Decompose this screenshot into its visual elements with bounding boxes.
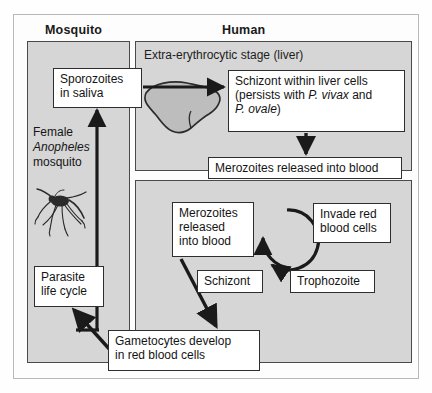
gametocytes-line-1: Gametocytes develop (115, 334, 231, 348)
column-header-human: Human (222, 23, 265, 37)
box-sporozoites-in-saliva[interactable]: Sporozoites in saliva (53, 68, 142, 108)
female-anopheles-label: Female Anopheles mosquito (33, 125, 113, 170)
box-parasite-life-cycle[interactable]: Parasite life cycle (34, 266, 104, 307)
column-header-mosquito: Mosquito (45, 23, 102, 37)
female-line-3: mosquito (33, 155, 82, 169)
merozoites-blood-line-3: into blood (179, 234, 231, 248)
box-merozoites-released-into-blood-liver[interactable]: Merozoites released into blood (208, 157, 402, 179)
sporozoites-line-1: Sporozoites (60, 72, 123, 86)
gametocytes-line-2: in red blood cells (115, 348, 205, 362)
merozoites-blood-line-2: released (179, 220, 225, 234)
box-invade-red-blood-cells[interactable]: Invade red blood cells (313, 203, 391, 243)
parasite-cycle-line-1: Parasite (41, 270, 85, 284)
diagram-canvas: Mosquito Human Extra-erythrocytic stage … (0, 0, 432, 393)
merozoites-released-line-1: Merozoites released into blood (215, 161, 378, 175)
box-trophozoite[interactable]: Trophozoite (290, 270, 375, 293)
female-line-2-italic: Anopheles (33, 140, 90, 154)
box-schizont[interactable]: Schizont (197, 270, 263, 293)
schizont-liver-line-4: ) (277, 102, 281, 116)
invade-line-2: blood cells (320, 221, 377, 235)
parasite-cycle-line-2: life cycle (41, 284, 87, 298)
sporozoites-line-2: in saliva (60, 86, 103, 100)
schizont-line-1: Schizont (204, 274, 250, 288)
trophozoite-line-1: Trophozoite (297, 274, 360, 288)
female-line-1: Female (33, 125, 73, 139)
box-merozoites-released-into-blood-cycle[interactable]: Merozoites released into blood (172, 202, 254, 257)
mosquito-illustration (29, 184, 95, 240)
merozoites-blood-line-1: Merozoites (179, 206, 238, 220)
invade-line-1: Invade red (320, 207, 377, 221)
schizont-liver-italic-1: P. vivax (308, 88, 348, 102)
schizont-liver-italic-2: P. ovale (235, 102, 277, 116)
panel-liver-title: Extra-erythrocytic stage (liver) (144, 48, 303, 62)
schizont-liver-line-2: (persists with (235, 88, 308, 102)
box-schizont-within-liver-cells[interactable]: Schizont within liver cells (persists wi… (228, 70, 405, 132)
schizont-liver-line-3: and (349, 88, 372, 102)
liver-illustration (139, 76, 223, 138)
schizont-liver-line-1: Schizont within liver cells (235, 74, 368, 88)
box-gametocytes-develop[interactable]: Gametocytes develop in red blood cells (108, 330, 260, 371)
